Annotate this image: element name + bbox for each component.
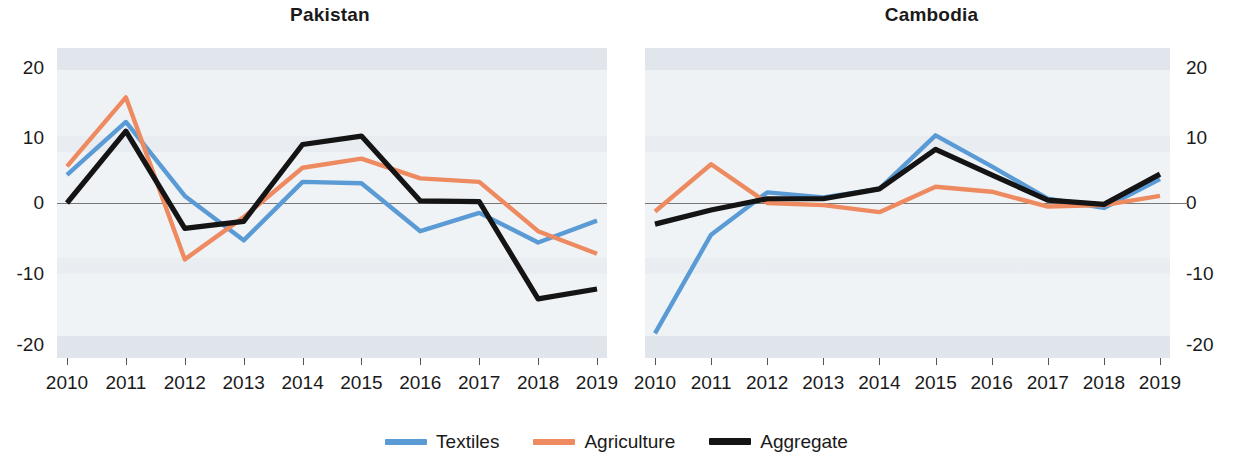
x-tick-mark xyxy=(597,358,598,365)
x-tick-label: 2019 xyxy=(1139,372,1181,394)
x-tick-label: 2012 xyxy=(164,372,206,394)
x-tick-label: 2013 xyxy=(223,372,265,394)
chart-legend: Textiles Agriculture Aggregate xyxy=(0,432,1233,451)
x-tick-mark xyxy=(936,358,937,365)
y-tick-label: -20 xyxy=(1186,335,1233,354)
plot-area-pakistan xyxy=(57,48,607,358)
legend-label-aggregate: Aggregate xyxy=(760,432,848,451)
panel-title-cambodia: Cambodia xyxy=(630,4,1233,26)
x-tick-label: 2011 xyxy=(105,372,146,394)
x-tick-marks-cambodia xyxy=(630,358,1233,366)
panel-pakistan: Pakistan 20 10 0 -10 -20 201020112012201… xyxy=(0,0,620,420)
x-tick-mark xyxy=(479,358,480,365)
series-line-agriculture xyxy=(67,97,597,259)
x-tick-label: 2018 xyxy=(517,372,559,394)
legend-swatch-aggregate-icon xyxy=(709,438,751,445)
x-tick-label: 2010 xyxy=(634,372,676,394)
x-tick-mark xyxy=(185,358,186,365)
x-tick-mark xyxy=(1160,358,1161,365)
x-tick-label: 2014 xyxy=(858,372,900,394)
x-tick-mark xyxy=(67,358,68,365)
y-tick-label: 10 xyxy=(1186,128,1233,147)
legend-item-textiles[interactable]: Textiles xyxy=(385,432,499,451)
chart-figure: Pakistan 20 10 0 -10 -20 201020112012201… xyxy=(0,0,1233,468)
x-tick-marks-pakistan xyxy=(0,358,620,366)
series-line-textiles xyxy=(655,135,1160,333)
x-tick-mark xyxy=(655,358,656,365)
legend-item-agriculture[interactable]: Agriculture xyxy=(533,432,675,451)
x-tick-label: 2016 xyxy=(971,372,1013,394)
x-tick-label: 2017 xyxy=(458,372,500,394)
x-tick-label: 2011 xyxy=(691,372,732,394)
x-tick-label: 2013 xyxy=(802,372,844,394)
x-tick-labels-cambodia: 2010201120122013201420152016201720182019 xyxy=(630,372,1233,396)
x-tick-label: 2012 xyxy=(746,372,788,394)
x-tick-label: 2014 xyxy=(281,372,323,394)
x-tick-labels-pakistan: 2010201120122013201420152016201720182019 xyxy=(0,372,620,396)
x-tick-label: 2019 xyxy=(576,372,618,394)
legend-item-aggregate[interactable]: Aggregate xyxy=(709,432,848,451)
panel-title-pakistan: Pakistan xyxy=(0,4,640,26)
y-tick-label: -20 xyxy=(0,335,44,354)
x-tick-mark xyxy=(420,358,421,365)
x-tick-mark xyxy=(361,358,362,365)
y-tick-label: -10 xyxy=(0,264,44,283)
x-tick-mark xyxy=(244,358,245,365)
x-tick-mark xyxy=(879,358,880,365)
series-lines-cambodia xyxy=(645,48,1170,358)
x-tick-label: 2018 xyxy=(1083,372,1125,394)
y-tick-label: 10 xyxy=(0,128,44,147)
x-tick-mark xyxy=(767,358,768,365)
x-tick-mark xyxy=(126,358,127,365)
y-tick-label: 0 xyxy=(0,193,44,212)
series-lines-pakistan xyxy=(57,48,607,358)
legend-label-agriculture: Agriculture xyxy=(584,432,675,451)
x-tick-label: 2015 xyxy=(914,372,956,394)
y-tick-label: -10 xyxy=(1186,264,1233,283)
x-tick-mark xyxy=(711,358,712,365)
x-tick-label: 2010 xyxy=(46,372,88,394)
x-tick-label: 2017 xyxy=(1027,372,1069,394)
x-tick-mark xyxy=(538,358,539,365)
x-tick-label: 2015 xyxy=(340,372,382,394)
legend-swatch-textiles-icon xyxy=(385,439,427,445)
x-tick-label: 2016 xyxy=(399,372,441,394)
legend-label-textiles: Textiles xyxy=(436,432,499,451)
legend-swatch-agriculture-icon xyxy=(533,439,575,445)
x-tick-mark xyxy=(823,358,824,365)
plot-area-cambodia xyxy=(645,48,1170,358)
x-tick-mark xyxy=(992,358,993,365)
y-tick-label: 0 xyxy=(1186,193,1233,212)
x-tick-mark xyxy=(1104,358,1105,365)
x-tick-mark xyxy=(1048,358,1049,365)
y-tick-label: 20 xyxy=(0,58,44,77)
panel-cambodia: Cambodia 20 10 0 -10 -20 201020112012201… xyxy=(630,0,1233,420)
x-tick-mark xyxy=(303,358,304,365)
y-tick-label: 20 xyxy=(1186,58,1233,77)
